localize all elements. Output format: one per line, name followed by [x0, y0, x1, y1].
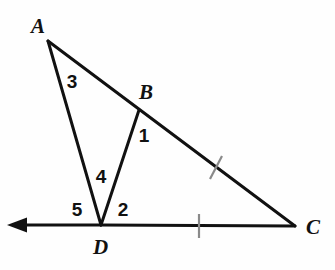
geometry-diagram: A B C D 1 2 3 4 5: [0, 0, 335, 270]
vertex-label-a: A: [29, 14, 45, 38]
angle-label-1: 1: [139, 125, 150, 146]
angle-label-4: 4: [96, 166, 107, 187]
vertex-label-c: C: [306, 215, 321, 239]
geometry-figure-svg: A B C D 1 2 3 4 5: [0, 0, 335, 270]
vertex-label-d: D: [92, 235, 108, 259]
angle-label-2: 2: [118, 199, 129, 220]
angle-label-3: 3: [67, 71, 78, 92]
angle-label-5: 5: [72, 199, 83, 220]
diagram-background: [0, 0, 335, 270]
vertex-label-b: B: [138, 80, 153, 104]
